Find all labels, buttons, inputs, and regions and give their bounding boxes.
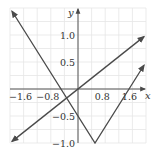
y-tick-label: 1.0: [60, 30, 75, 41]
x-axis-label: x: [145, 90, 151, 101]
x-tick-label: −1.6: [9, 91, 32, 102]
y-axis-label: y: [67, 7, 74, 18]
y-tick-label: −1.0: [52, 138, 75, 149]
x-tick-label: 0.8: [95, 91, 110, 102]
y-tick-label: −0.5: [52, 111, 75, 122]
y-tick-label: 0.5: [60, 57, 75, 68]
function-graph: x y −1.6−0.80.81.6 1.00.5−0.5−1.0: [0, 0, 153, 153]
x-tick-label: −0.8: [36, 91, 59, 102]
